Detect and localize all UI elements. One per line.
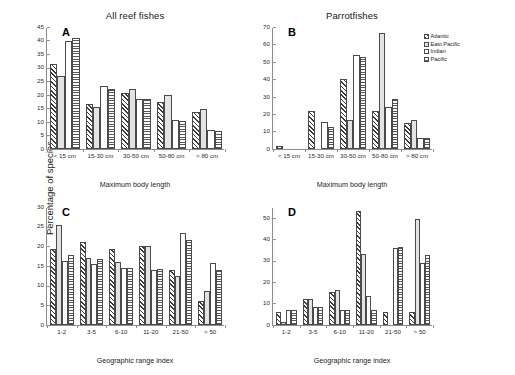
bar-group xyxy=(406,208,433,325)
x-axis-tick-label: > 50 xyxy=(414,329,426,335)
bar-pacific xyxy=(371,310,376,325)
panel-d: D010203040501-23-56-1011-2021-50> 50Geog… xyxy=(0,0,515,375)
bar-pacific xyxy=(291,310,296,325)
bar-group xyxy=(326,208,353,325)
y-axis-tick-label: 20 xyxy=(263,279,273,285)
bar-group xyxy=(300,208,327,325)
x-axis-tick-mark xyxy=(300,325,301,328)
x-axis-tick-label: 3-5 xyxy=(309,329,318,335)
bar-pacific xyxy=(425,255,430,325)
bar-pacific xyxy=(398,247,403,325)
x-axis-tick-label: 21-50 xyxy=(385,329,401,335)
bar-group xyxy=(353,208,380,325)
x-axis-tick-mark xyxy=(380,325,381,328)
x-axis-tick-label: 11-20 xyxy=(359,329,374,335)
x-axis-tick-label: 6-10 xyxy=(333,329,345,335)
bar-pacific xyxy=(318,307,323,325)
panel-d-plot-area: 010203040501-23-56-1011-2021-50> 50 xyxy=(272,208,432,326)
panel-d-x-axis-title: Geographic range index xyxy=(272,356,432,365)
bar-atlantic xyxy=(383,312,388,325)
y-axis-tick-label: 50 xyxy=(263,215,273,221)
x-axis-tick-mark xyxy=(406,325,407,328)
bar-group xyxy=(273,208,300,325)
x-axis-tick-mark xyxy=(273,325,274,328)
bar-pacific xyxy=(345,310,350,325)
x-axis-tick-mark xyxy=(353,325,354,328)
x-axis-tick-mark xyxy=(433,325,434,328)
x-axis-tick-label: 1-2 xyxy=(282,329,291,335)
y-axis-tick-label: 30 xyxy=(263,258,273,264)
figure-root: Percentage of species AtlanticEast Pacif… xyxy=(0,0,515,375)
y-axis-tick-label: 40 xyxy=(263,236,273,242)
y-axis-tick-label: 10 xyxy=(263,300,273,306)
x-axis-tick-mark xyxy=(326,325,327,328)
bar-group xyxy=(380,208,407,325)
